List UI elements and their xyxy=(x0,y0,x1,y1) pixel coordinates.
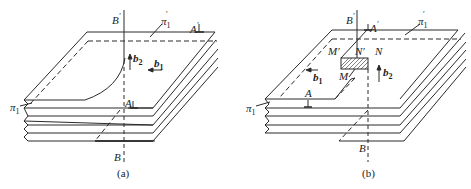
label-b-bottom: B xyxy=(359,143,366,154)
label-m-prime: M′ xyxy=(328,46,340,57)
label-b1: b1 xyxy=(154,58,164,72)
label-n: N xyxy=(375,46,382,57)
label-a: A xyxy=(125,98,132,109)
label-m: M xyxy=(339,71,348,82)
label-a: A xyxy=(305,88,312,99)
label-a-prime: A′ xyxy=(370,21,378,34)
label-b-prime-top: B′ xyxy=(112,13,120,26)
label-b2: b2 xyxy=(133,53,143,67)
caption-b: (b) xyxy=(362,168,375,179)
panel-a-sheets xyxy=(24,40,218,141)
label-pi1: π1 xyxy=(246,103,256,117)
diagram-canvas xyxy=(0,0,471,189)
caption-a: (a) xyxy=(117,168,129,179)
label-pi1: π1 xyxy=(10,102,20,116)
panel-b-sheets xyxy=(265,33,466,141)
label-b2: b2 xyxy=(383,67,393,81)
label-pi1-prime: π1′ xyxy=(418,14,429,30)
label-a-prime: A′ xyxy=(190,22,198,35)
label-pi1-prime: π1′ xyxy=(161,14,172,30)
label-b-bottom: B xyxy=(114,152,121,163)
label-b-prime-top: B′ xyxy=(346,13,354,26)
label-b1: b1 xyxy=(313,72,323,86)
label-n-prime: N′ xyxy=(355,46,365,57)
